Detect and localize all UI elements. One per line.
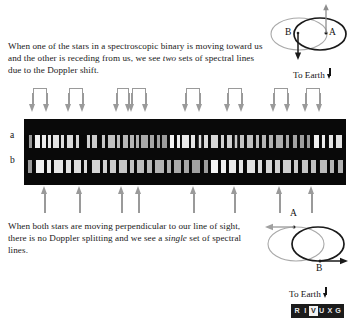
spectral-line xyxy=(330,160,334,173)
to-earth-text-top: To Earth xyxy=(293,70,325,80)
star-b-velocity-arrow-right xyxy=(320,258,348,264)
spectral-line xyxy=(336,135,342,148)
spectral-line xyxy=(262,135,266,148)
caption-bottom-emphasis: single xyxy=(165,233,187,243)
to-earth-label-bottom: To Earth xyxy=(289,287,330,299)
spectral-line xyxy=(110,160,116,173)
rivuxg-letter-v: V xyxy=(309,306,317,316)
spectral-line xyxy=(42,135,46,148)
caption-bottom: When both stars are moving perpendicular… xyxy=(8,220,260,256)
spectral-line xyxy=(174,160,181,173)
spectral-line xyxy=(123,135,128,148)
split-line-markers xyxy=(0,88,350,119)
spectral-line xyxy=(204,160,208,173)
spectral-line xyxy=(177,135,180,148)
marker-bracket xyxy=(306,88,320,95)
rivuxg-waveband-badge: RIVUXG xyxy=(291,304,344,318)
spectral-line xyxy=(87,135,90,148)
spectral-line xyxy=(141,135,147,148)
doppler-split-marker-pair xyxy=(132,88,146,119)
spectral-line xyxy=(54,160,63,173)
orbit-diagram-no-split: A B xyxy=(262,208,350,276)
orbit-ellipse-b xyxy=(271,18,327,50)
orbit-ellipse-a-bottom xyxy=(292,227,344,261)
to-earth-text-bottom: To Earth xyxy=(289,289,321,299)
to-earth-arrow-top xyxy=(327,68,334,79)
marker-bracket xyxy=(132,88,146,95)
spectral-line xyxy=(204,135,209,148)
spectral-line xyxy=(137,160,143,173)
to-earth-arrow-bottom xyxy=(323,287,330,298)
spectral-line xyxy=(293,135,298,148)
spectral-line xyxy=(338,160,344,173)
spectral-line xyxy=(182,135,188,148)
spectral-line xyxy=(221,135,224,148)
spectral-line xyxy=(162,135,167,148)
orbit-top-svg xyxy=(268,2,350,64)
spectral-line xyxy=(74,160,81,173)
spectrum-strip-b xyxy=(24,160,346,173)
spectral-line xyxy=(119,160,127,173)
spectral-line xyxy=(66,160,71,173)
spectral-line xyxy=(29,135,33,148)
spectrum-strip-a xyxy=(24,135,346,148)
rivuxg-letter-g: G xyxy=(334,306,342,316)
spectral-line xyxy=(240,135,244,148)
spectral-line xyxy=(294,160,298,173)
spectral-line xyxy=(117,135,120,148)
spectral-line xyxy=(329,135,333,148)
rivuxg-letter-i: I xyxy=(301,306,309,316)
spectral-line xyxy=(147,160,152,173)
spectral-line xyxy=(47,160,51,173)
spectral-line xyxy=(311,160,316,173)
orbit-diagram-doppler-split: B A xyxy=(268,2,350,64)
spectral-line xyxy=(269,135,272,148)
spectrum-label-b: b xyxy=(10,155,15,165)
spectral-line xyxy=(199,135,202,148)
spectral-line xyxy=(184,160,189,173)
doppler-split-marker-pair xyxy=(33,88,47,119)
spectral-line xyxy=(239,160,243,173)
spectral-line xyxy=(256,135,259,148)
spectral-line xyxy=(102,135,106,148)
orbit-top-label-a: A xyxy=(329,27,336,37)
orbit-bottom-label-a: A xyxy=(290,208,297,218)
spectral-line xyxy=(170,135,174,148)
spectral-line xyxy=(266,160,272,173)
spectral-line xyxy=(320,160,327,173)
spectral-line xyxy=(108,135,115,148)
star-a-velocity-arrow-left xyxy=(265,224,294,230)
spectral-line xyxy=(227,135,232,148)
rivuxg-letter-r: R xyxy=(293,306,301,316)
to-earth-label-top: To Earth xyxy=(293,68,334,80)
marker-bracket xyxy=(33,88,47,95)
spectral-line xyxy=(92,135,97,148)
orbit-top-label-b: B xyxy=(285,27,291,37)
rivuxg-letter-x: X xyxy=(326,306,334,316)
spectral-line xyxy=(150,135,154,148)
spectral-line xyxy=(314,135,319,148)
spectral-line xyxy=(76,135,79,148)
spectral-line xyxy=(48,135,51,148)
doppler-split-marker-pair xyxy=(274,88,288,119)
star-b-velocity-arrow-down xyxy=(295,33,301,60)
spectral-line xyxy=(136,135,139,148)
spectral-line xyxy=(157,135,160,148)
spectral-line xyxy=(84,160,88,173)
doppler-split-marker-pair xyxy=(69,88,83,119)
spectral-line xyxy=(247,135,253,148)
spectrum-panel xyxy=(24,119,346,185)
spectral-line xyxy=(103,160,107,173)
spectral-line xyxy=(92,160,101,173)
spectral-line xyxy=(275,160,280,173)
spectral-line xyxy=(322,135,325,148)
spectral-line xyxy=(235,135,238,148)
astronomy-figure: When one of the stars in a spectroscopic… xyxy=(0,0,350,322)
spectral-line xyxy=(192,160,200,173)
spectral-line xyxy=(211,135,218,148)
rivuxg-letter-u: U xyxy=(318,306,326,316)
marker-bracket xyxy=(69,88,83,95)
doppler-split-marker-pair xyxy=(186,88,200,119)
spectral-line xyxy=(36,160,44,173)
spectral-line xyxy=(191,135,195,148)
